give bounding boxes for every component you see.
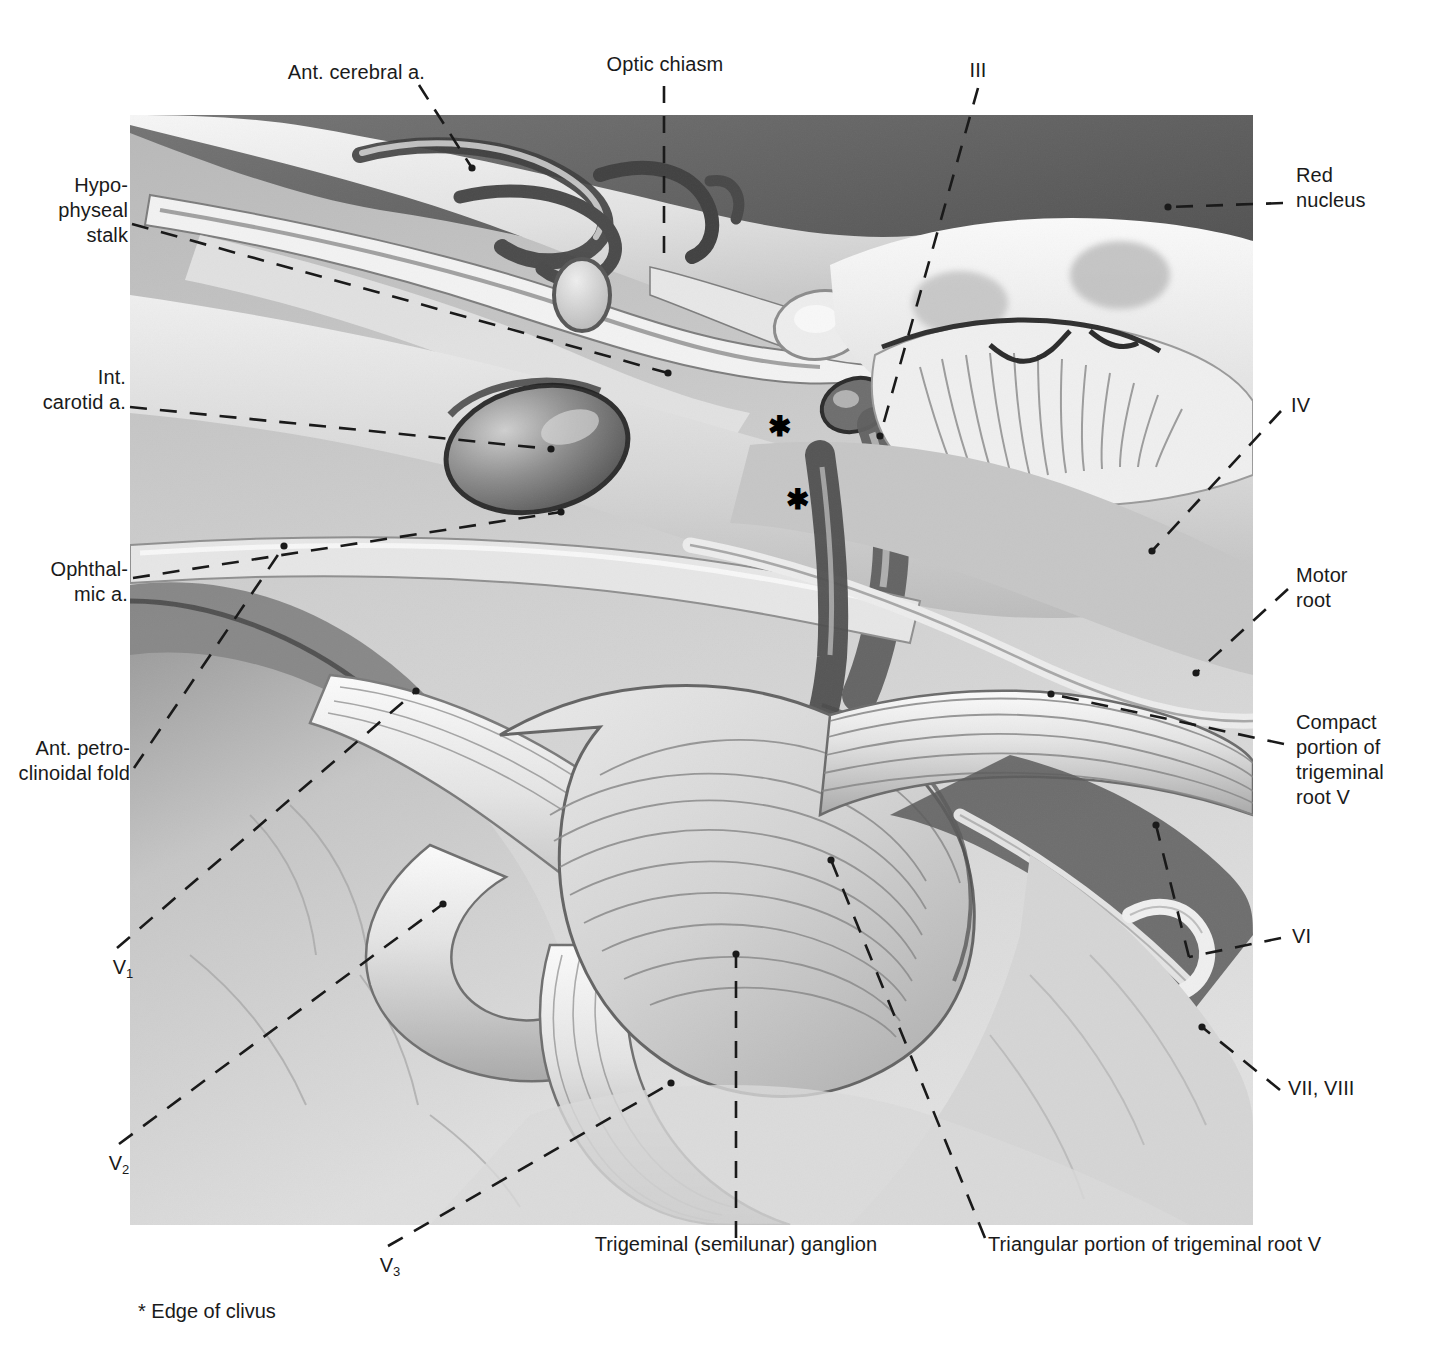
label-v1-subscript: 1	[126, 966, 133, 981]
label-v1-base: V	[113, 956, 126, 978]
label-v1: V1	[90, 930, 133, 1011]
label-optic-chiasm: Optic chiasm	[545, 52, 785, 77]
label-hypophyseal-stalk: Hypo- physeal stalk	[10, 173, 128, 248]
label-compact-portion: Compact portion of trigeminal root V	[1296, 710, 1432, 810]
footnote-edge-of-clivus: * Edge of clivus	[138, 1300, 276, 1323]
label-v2: V2	[86, 1126, 129, 1207]
asterisk-marker-upper: ✱	[768, 413, 791, 441]
label-nerve-vii-viii: VII, VIII	[1288, 1076, 1428, 1101]
asterisk-marker-lower: ✱	[786, 486, 809, 514]
anatomy-illustration	[130, 115, 1253, 1225]
label-v2-subscript: 2	[122, 1162, 129, 1177]
label-trigeminal-ganglion: Trigeminal (semilunar) ganglion	[556, 1232, 916, 1257]
label-v3-base: V	[380, 1254, 393, 1276]
label-nerve-vi: VI	[1292, 924, 1372, 949]
label-motor-root: Motor root	[1296, 563, 1426, 613]
label-nerve-iii: III	[948, 58, 1008, 83]
label-v3-subscript: 3	[393, 1264, 400, 1279]
label-int-carotid-a: Int. carotid a.	[0, 365, 126, 415]
label-ophthalmic-a: Ophthal- mic a.	[0, 557, 128, 607]
label-ant-petroclinoidal-fold: Ant. petro- clinoidal fold	[0, 736, 130, 786]
label-triangular-portion: Triangular portion of trigeminal root V	[988, 1232, 1388, 1257]
label-nerve-iv: IV	[1291, 393, 1361, 418]
anatomical-plate: ✱ ✱ Ant. cerebral a. Optic chiasm III Re…	[0, 0, 1435, 1352]
illustration-artwork	[130, 115, 1253, 1225]
label-v3: V3	[357, 1228, 400, 1309]
label-v2-base: V	[109, 1152, 122, 1174]
label-ant-cerebral-a: Ant. cerebral a.	[155, 60, 425, 85]
label-red-nucleus: Red nucleus	[1296, 163, 1426, 213]
